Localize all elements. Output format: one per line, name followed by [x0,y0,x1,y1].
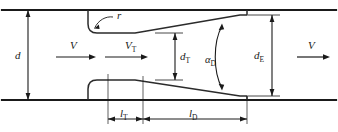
exit-diameter-subscript: E [260,55,265,64]
throat-velocity-arrow [105,54,148,60]
throat-diameter-subscript: T [186,56,191,65]
duct-walls [2,10,336,100]
duct-diagram-figure: r d V VT dT [0,0,338,132]
diffuser-length-subscript: D [192,113,198,122]
outlet-velocity-arrow [297,54,330,60]
upper-body-contour [88,10,247,33]
throat-length-subscript: T [123,113,128,122]
lip-radius-label: r [117,9,122,21]
outlet-velocity-label: V [308,39,316,51]
lower-body-contour [88,80,247,100]
diffuser-angle-marker [215,24,224,91]
inlet-velocity-arrow [56,54,96,60]
throat-diameter-label: dT [180,50,191,65]
diffuser-angle-subscript: D [211,59,217,68]
duct-diagram-svg: r d V VT dT [0,0,338,132]
exit-diameter-label: dE [254,49,265,64]
inlet-velocity-label: V [70,39,78,51]
throat-diameter-dimension [155,33,183,80]
lip-radius-leader [95,17,114,29]
duct-diameter-label: d [15,49,21,61]
duct-diameter-dimension [26,10,31,100]
throat-velocity-subscript: T [132,45,137,54]
throat-velocity-label: VT [125,39,137,54]
